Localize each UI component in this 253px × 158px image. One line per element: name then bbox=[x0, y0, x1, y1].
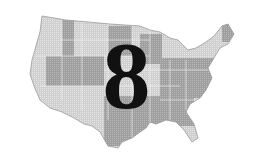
numeral-label: 8 bbox=[0, 28, 253, 124]
us-map-figure: 8 bbox=[0, 0, 253, 158]
